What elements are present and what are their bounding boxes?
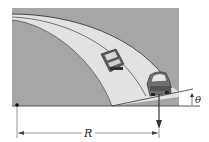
center-point [15, 103, 19, 107]
angle-label: θ [195, 94, 201, 105]
bank-angle-indicator [190, 93, 194, 105]
car-lower [147, 72, 171, 96]
banked-curve-diagram: R θ [0, 0, 209, 142]
radius-label: R [83, 127, 92, 140]
